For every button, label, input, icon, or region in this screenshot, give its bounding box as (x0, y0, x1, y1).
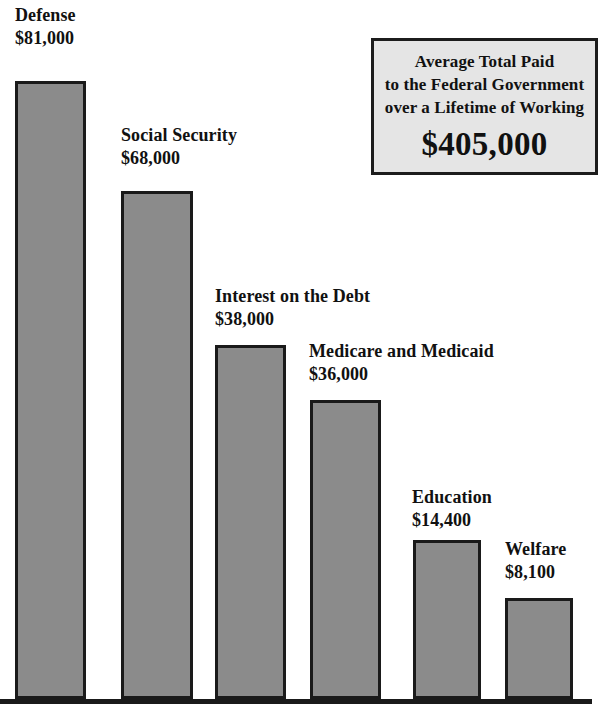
bar-interest-on-the-debt (215, 345, 286, 699)
callout-box: Average Total Paid to the Federal Govern… (371, 38, 598, 175)
bar-label-social-security: Social Security $68,000 (121, 124, 237, 170)
bar-category-defense: Defense (15, 4, 76, 27)
bar-value-social-security: $68,000 (121, 147, 237, 170)
bar-education (413, 540, 481, 699)
bar-chart: Defense $81,000 Social Security $68,000 … (0, 0, 607, 715)
bar-label-medicare-and-medicaid: Medicare and Medicaid $36,000 (309, 340, 494, 386)
bar-label-welfare: Welfare $8,100 (505, 538, 566, 584)
bar-value-welfare: $8,100 (505, 561, 566, 584)
bar-value-interest-on-the-debt: $38,000 (215, 308, 370, 331)
bar-value-defense: $81,000 (15, 27, 76, 50)
callout-text: Average Total Paid to the Federal Govern… (374, 50, 595, 119)
bar-category-social-security: Social Security (121, 124, 237, 147)
callout-line-1: Average Total Paid (374, 50, 595, 73)
bar-category-welfare: Welfare (505, 538, 566, 561)
bar-category-education: Education (412, 486, 492, 509)
bar-category-interest-on-the-debt: Interest on the Debt (215, 285, 370, 308)
bar-label-defense: Defense $81,000 (15, 4, 76, 50)
bar-welfare (505, 598, 573, 699)
bar-label-interest-on-the-debt: Interest on the Debt $38,000 (215, 285, 370, 331)
bar-medicare-and-medicaid (310, 400, 381, 699)
callout-line-2: to the Federal Government (374, 73, 595, 96)
bar-label-education: Education $14,400 (412, 486, 492, 532)
bar-defense (15, 81, 86, 699)
bar-value-education: $14,400 (412, 509, 492, 532)
bar-value-medicare-and-medicaid: $36,000 (309, 363, 494, 386)
bar-social-security (121, 191, 193, 699)
bar-category-medicare-and-medicaid: Medicare and Medicaid (309, 340, 494, 363)
callout-line-3: over a Lifetime of Working (374, 96, 595, 119)
callout-amount: $405,000 (374, 125, 595, 163)
x-axis-line (0, 699, 592, 704)
